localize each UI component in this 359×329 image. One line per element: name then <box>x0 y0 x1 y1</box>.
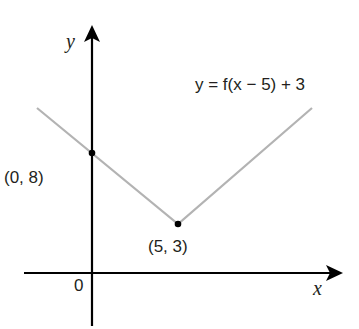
function-curve <box>37 108 312 224</box>
graph: y x 0 (0, 8) (5, 3) y = f(x − 5) + 3 <box>0 0 359 329</box>
origin-label: 0 <box>74 276 83 295</box>
x-axis-label: x <box>312 277 322 299</box>
point-0-8-label: (0, 8) <box>4 168 44 187</box>
x-axis <box>24 265 343 281</box>
point-0-8 <box>89 150 96 157</box>
point-5-3 <box>175 221 182 228</box>
y-axis <box>84 25 100 326</box>
y-axis-label: y <box>64 30 75 53</box>
point-5-3-label: (5, 3) <box>148 237 188 256</box>
function-label: y = f(x − 5) + 3 <box>195 75 305 94</box>
